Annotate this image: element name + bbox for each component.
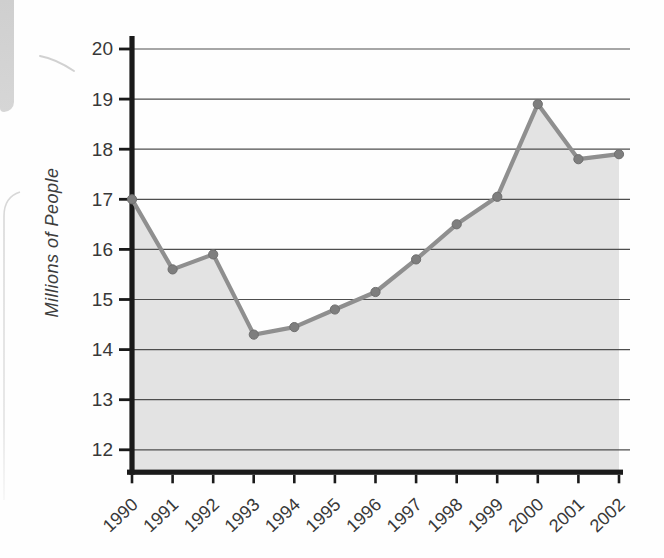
x-tick — [415, 475, 418, 484]
data-point — [452, 220, 461, 229]
y-axis-title: Millions of People — [42, 123, 63, 363]
data-point — [330, 305, 339, 314]
x-tick — [212, 475, 215, 484]
y-tick-label: 14 — [92, 339, 114, 360]
y-axis — [129, 36, 134, 475]
data-point — [168, 265, 177, 274]
data-point — [290, 323, 299, 332]
y-tick-label: 18 — [92, 139, 113, 160]
x-tick — [496, 475, 499, 484]
y-tick — [119, 148, 132, 151]
data-point — [493, 192, 502, 201]
y-tick — [119, 298, 132, 301]
x-tick-label: 1996 — [342, 494, 385, 536]
data-point — [533, 100, 542, 109]
x-tick-label: 1991 — [139, 494, 182, 536]
x-tick — [374, 475, 377, 484]
x-tick — [577, 475, 580, 484]
x-tick-label: 2000 — [505, 494, 548, 536]
y-tick-label: 17 — [92, 189, 113, 210]
x-tick — [171, 475, 174, 484]
data-point — [249, 330, 258, 339]
y-tick-label: 12 — [92, 439, 113, 460]
y-tick — [119, 98, 132, 101]
x-tick-label: 1999 — [464, 494, 507, 536]
x-tick-label: 1990 — [99, 494, 142, 536]
data-point — [127, 195, 136, 204]
x-tick-label: 1993 — [221, 494, 264, 536]
y-tick-label: 20 — [92, 38, 113, 59]
population-chart: 2019181716151413121990199119921993199419… — [0, 0, 664, 558]
y-tick — [119, 348, 132, 351]
data-point — [209, 250, 218, 259]
x-tick-label: 2001 — [545, 494, 588, 536]
y-tick — [119, 398, 132, 401]
scanned-page: 2019181716151413121990199119921993199419… — [0, 0, 664, 558]
x-tick — [293, 475, 296, 484]
y-tick-label: 15 — [92, 289, 113, 310]
x-tick — [618, 475, 621, 484]
x-tick-label: 1997 — [383, 494, 426, 536]
y-tick — [119, 248, 132, 251]
y-tick — [119, 48, 132, 51]
y-tick-label: 19 — [92, 89, 113, 110]
x-tick-label: 1995 — [302, 494, 345, 536]
data-point — [412, 255, 421, 264]
x-tick-label: 2002 — [586, 494, 629, 536]
data-point — [371, 287, 380, 296]
x-axis — [127, 470, 623, 475]
y-tick-label: 13 — [92, 389, 113, 410]
x-tick — [131, 475, 134, 484]
data-point — [614, 150, 623, 159]
x-tick-label: 1992 — [180, 494, 223, 536]
y-tick — [119, 448, 132, 451]
x-tick — [537, 475, 540, 484]
data-point — [574, 155, 583, 164]
x-tick-label: 1998 — [423, 494, 466, 536]
x-tick — [455, 475, 458, 484]
x-tick — [334, 475, 337, 484]
x-tick-label: 1994 — [261, 494, 304, 536]
x-tick — [252, 475, 255, 484]
y-tick-label: 16 — [92, 239, 113, 260]
